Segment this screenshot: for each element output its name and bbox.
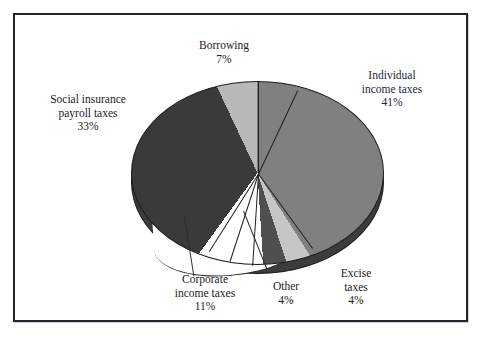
slice-separator <box>258 82 259 174</box>
slice-label-corporate-income-taxes: Corporate income taxes 11% <box>141 273 269 314</box>
slice-separator <box>209 174 259 252</box>
slice-label-other: Other 4% <box>255 280 317 307</box>
slice-label-excise-taxes: Excise taxes 4% <box>323 267 389 308</box>
figure-caption-strip: FIGURE 14-1 The Federal Government Dolla… <box>0 0 485 9</box>
slice-label-individual-income-taxes: Individual income taxes 41% <box>327 69 457 110</box>
figure-frame: Borrowing 7% Individual income taxes 41%… <box>13 13 468 322</box>
slice-label-social-insurance-payroll-taxes: Social insurance payroll taxes 33% <box>18 93 158 134</box>
slice-separator <box>258 174 313 249</box>
slice-separator <box>258 91 298 175</box>
figure-caption: FIGURE 14-1 The Federal Government Dolla… <box>96 0 357 2</box>
slice-label-borrowing: Borrowing 7% <box>166 39 282 66</box>
